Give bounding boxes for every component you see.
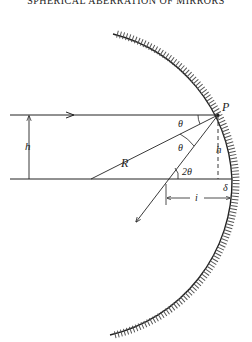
- label-h-left: h: [25, 140, 31, 152]
- radius-line: [91, 115, 218, 179]
- angle-arc-incident: [198, 115, 200, 124]
- reflected-ray: [136, 115, 218, 222]
- mirror-hatching: [114, 34, 236, 335]
- mirror-surface: [110, 34, 232, 335]
- angle-arc-2theta: [175, 168, 178, 179]
- point-p: [216, 113, 219, 116]
- label-delta: δ: [223, 182, 228, 193]
- label-h-right: h: [216, 143, 222, 155]
- label-r: R: [120, 156, 129, 170]
- label-2theta: 2θ: [182, 166, 192, 177]
- label-i: i: [195, 192, 198, 203]
- label-theta-reflected: θ: [178, 142, 183, 153]
- spherical-mirror-diagram: P h h R θ θ 2θ δ i: [0, 0, 252, 342]
- label-theta-incident: θ: [178, 118, 183, 129]
- label-p: P: [221, 100, 230, 114]
